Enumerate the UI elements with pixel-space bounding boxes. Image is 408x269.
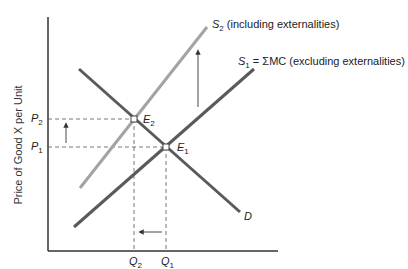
p1-label: P1	[31, 141, 43, 152]
externality-diagram: Price of Good X per Unit P2 P1 Q2 Q1 E2 …	[0, 0, 408, 269]
p2-label: P2	[31, 113, 43, 124]
demand-curve	[79, 69, 240, 212]
s1-curve-label: S1 = ΣMC (excluding externalities)	[238, 56, 405, 67]
s2-curve-label: S2 (including externalities)	[212, 19, 339, 30]
e1-label: E1	[177, 142, 189, 153]
q2-label: Q2	[129, 256, 142, 267]
q1-label: Q1	[161, 256, 174, 267]
diagram-canvas	[0, 0, 408, 269]
equilibrium-e1-marker	[163, 144, 169, 150]
e2-label: E2	[143, 114, 155, 125]
demand-curve-label: D	[244, 211, 252, 222]
equilibrium-e2-marker	[131, 116, 137, 122]
y-axis-label: Price of Good X per Unit	[12, 85, 24, 204]
